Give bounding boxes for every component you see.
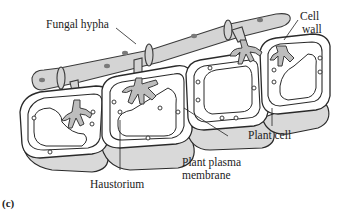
nucleus [257, 18, 263, 22]
leader-fungal-hypha [116, 28, 136, 44]
septum [224, 20, 232, 40]
label-cell-wall-2: wall [302, 23, 322, 35]
septum [145, 44, 153, 66]
label-cell-wall-1: Cell [300, 10, 319, 22]
fungal-haustoria-diagram: Fungal hypha Cell wall Plant cell Plant … [0, 0, 339, 211]
nucleus [104, 64, 110, 68]
plant-cell-1 [20, 86, 110, 158]
label-fungal-hypha: Fungal hypha [46, 18, 109, 31]
plant-cell-3 [186, 52, 268, 130]
nucleus [122, 51, 128, 55]
label-plant-cell: Plant cell [248, 129, 291, 141]
label-plant-plasma-membrane-2: membrane [182, 169, 231, 181]
plant-cell-2 [102, 66, 192, 148]
panel-label: (c) [2, 197, 15, 210]
septum [57, 67, 65, 89]
nucleus [39, 78, 45, 82]
label-plant-plasma-membrane-1: Plant plasma [182, 156, 241, 169]
label-haustorium: Haustorium [90, 178, 144, 190]
nucleus [191, 34, 197, 38]
